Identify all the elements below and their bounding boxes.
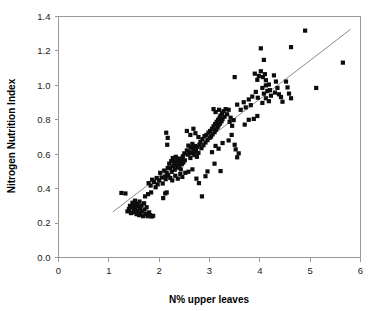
data-point: [230, 124, 234, 128]
data-point: [243, 123, 247, 127]
data-point: [249, 103, 253, 107]
data-point: [161, 181, 165, 185]
data-point: [197, 181, 201, 185]
data-point: [262, 58, 266, 62]
data-point: [267, 99, 271, 103]
data-point: [275, 86, 279, 90]
data-point: [119, 191, 123, 195]
data-point: [289, 96, 293, 100]
data-point: [285, 85, 289, 89]
data-point: [149, 190, 153, 194]
data-point: [144, 205, 148, 209]
x-tick-label: 3: [207, 265, 212, 276]
data-point: [196, 135, 200, 139]
data-point: [289, 45, 293, 49]
data-point: [227, 138, 231, 142]
data-point: [158, 171, 162, 175]
data-point: [164, 131, 168, 135]
data-point: [188, 156, 192, 160]
data-point: [269, 94, 273, 98]
data-point: [247, 118, 251, 122]
data-point: [233, 143, 237, 147]
data-point: [253, 72, 257, 76]
x-axis-title: N% upper leaves: [169, 294, 249, 305]
data-point: [263, 72, 267, 76]
x-axis-tick-labels: 0123456: [56, 265, 363, 276]
data-point: [176, 177, 180, 181]
data-point: [259, 69, 263, 73]
data-point: [254, 90, 258, 94]
data-point: [256, 96, 260, 100]
data-point: [268, 88, 272, 92]
data-point: [235, 155, 239, 159]
y-axis-ticks: [55, 17, 59, 258]
data-point: [194, 177, 198, 181]
y-tick-label: 1.0: [37, 80, 50, 91]
data-point: [220, 141, 224, 145]
data-point: [260, 101, 264, 105]
data-point: [280, 100, 284, 104]
data-point: [183, 158, 187, 162]
data-point: [284, 79, 288, 83]
x-tick-label: 1: [106, 265, 111, 276]
data-point: [164, 177, 168, 181]
data-point: [273, 90, 277, 94]
data-point: [185, 129, 189, 133]
data-point: [239, 108, 243, 112]
data-point: [151, 214, 155, 218]
data-point: [233, 75, 237, 79]
y-tick-label: 0.4: [37, 183, 50, 194]
data-point: [279, 95, 283, 99]
data-point: [287, 92, 291, 96]
data-point: [255, 78, 259, 82]
data-point: [237, 151, 241, 155]
data-point: [166, 136, 170, 140]
data-point: [228, 120, 232, 124]
x-tick-label: 4: [257, 265, 262, 276]
data-point: [191, 127, 195, 131]
y-tick-label: 0.0: [37, 252, 50, 263]
data-point: [259, 46, 263, 50]
data-point: [205, 169, 209, 173]
data-point: [264, 78, 268, 82]
scatter-chart: 0123456 0.00.20.40.60.81.01.21.4 N% uppe…: [0, 0, 380, 311]
data-point: [190, 167, 194, 171]
data-point: [196, 151, 200, 155]
data-point: [165, 190, 169, 194]
data-point: [341, 61, 345, 65]
data-point: [179, 167, 183, 171]
data-points: [119, 29, 345, 219]
data-point: [186, 170, 190, 174]
y-tick-label: 0.2: [37, 217, 50, 228]
data-point: [234, 147, 238, 151]
y-tick-label: 1.2: [37, 45, 50, 56]
x-axis-ticks: [59, 258, 361, 262]
y-axis-title: Nitrogen Nutrition Index: [6, 78, 17, 193]
y-axis-tick-labels: 0.00.20.40.60.81.01.21.4: [37, 11, 50, 263]
data-point: [156, 182, 160, 186]
data-point: [200, 194, 204, 198]
y-tick-label: 0.6: [37, 149, 50, 160]
data-point: [165, 143, 169, 147]
data-point: [195, 155, 199, 159]
data-point: [217, 108, 221, 112]
data-point: [170, 178, 174, 182]
data-point: [218, 169, 222, 173]
y-tick-label: 1.4: [37, 11, 50, 22]
data-point: [161, 196, 165, 200]
data-point: [230, 133, 234, 137]
data-point: [123, 191, 127, 195]
data-point: [255, 114, 259, 118]
data-point: [272, 73, 276, 77]
data-point: [303, 29, 307, 33]
data-point: [257, 74, 261, 78]
data-point: [274, 79, 278, 83]
data-point: [235, 103, 239, 107]
data-point: [232, 118, 236, 122]
data-point: [267, 82, 271, 86]
data-point: [314, 86, 318, 90]
data-point: [212, 162, 216, 166]
plot-svg: 0123456 0.00.20.40.60.81.01.21.4 N% uppe…: [0, 0, 380, 311]
x-tick-label: 2: [157, 265, 162, 276]
data-point: [193, 131, 197, 135]
